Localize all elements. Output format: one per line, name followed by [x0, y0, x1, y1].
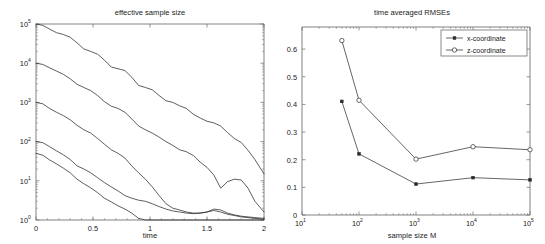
left-curve	[36, 63, 264, 212]
svg-text:10: 10	[20, 177, 28, 186]
right-data-point	[341, 100, 344, 103]
svg-text:4: 4	[28, 57, 31, 63]
svg-text:2: 2	[360, 217, 363, 223]
right-plot-legend: x-coordinatez-coordinate	[441, 30, 527, 56]
svg-text:10: 10	[409, 219, 417, 228]
right-series-line	[342, 41, 530, 160]
right-y-tick-0.6: 0.6	[287, 45, 297, 54]
left-y-tick-labels: 100101102103104105	[20, 18, 31, 225]
svg-text:10: 10	[20, 137, 28, 146]
figure-canvas: effective sample size 100101102103104105…	[0, 0, 545, 244]
svg-text:10: 10	[523, 219, 531, 228]
right-y-tick-0.5: 0.5	[287, 73, 297, 82]
left-curve	[36, 142, 264, 220]
svg-text:10: 10	[20, 20, 28, 29]
left-y-tick-10^5: 105	[20, 18, 31, 29]
right-x-tick-10^3: 103	[409, 217, 420, 228]
right-x-tick-10^5: 105	[523, 217, 534, 228]
left-x-axis-label: time	[143, 231, 157, 240]
svg-text:10: 10	[20, 216, 28, 225]
right-data-point	[472, 176, 475, 179]
left-x-tick-2: 2	[262, 224, 266, 233]
right-data-point	[471, 145, 475, 149]
svg-text:2: 2	[28, 136, 31, 142]
right-data-point	[528, 148, 532, 152]
left-curve	[36, 24, 264, 174]
svg-text:0: 0	[28, 214, 31, 220]
svg-text:10: 10	[20, 98, 28, 107]
right-data-point	[358, 153, 361, 156]
svg-text:10: 10	[295, 219, 303, 228]
left-plot-title: effective sample size	[115, 8, 185, 17]
left-y-tick-10^3: 103	[20, 97, 31, 108]
right-plot-svg: time averaged RMSEs 00.10.20.30.40.50.6 …	[272, 0, 544, 244]
left-y-tick-10^2: 102	[20, 136, 31, 147]
right-data-point	[529, 179, 532, 182]
left-x-tick-0: 0	[34, 224, 38, 233]
legend-label-x-coordinate: x-coordinate	[467, 35, 506, 42]
right-x-tick-10^4: 104	[466, 217, 477, 228]
plot-time-averaged-rmses: time averaged RMSEs 00.10.20.30.40.50.6 …	[272, 0, 544, 244]
svg-text:10: 10	[352, 219, 360, 228]
left-y-tick-10^1: 101	[20, 175, 31, 186]
right-y-tick-labels: 00.10.20.30.40.50.6	[287, 45, 297, 220]
svg-text:5: 5	[28, 18, 31, 24]
right-data-series	[340, 38, 533, 185]
right-data-point	[414, 157, 418, 161]
left-x-tick-1.5: 1.5	[202, 224, 212, 233]
svg-text:10: 10	[466, 219, 474, 228]
left-data-curves	[36, 24, 264, 220]
right-x-tick-10^1: 101	[295, 217, 306, 228]
right-data-point	[340, 38, 344, 42]
svg-text:4: 4	[474, 217, 477, 223]
right-plot-title: time averaged RMSEs	[374, 8, 450, 17]
svg-text:1: 1	[303, 217, 306, 223]
right-y-tick-0.2: 0.2	[287, 156, 297, 165]
svg-text:3: 3	[28, 97, 31, 103]
svg-text:3: 3	[417, 217, 420, 223]
left-y-tick-10^0: 100	[20, 214, 31, 225]
left-y-tick-10^4: 104	[20, 57, 31, 68]
right-data-point	[357, 98, 361, 102]
right-y-tick-0.4: 0.4	[287, 100, 297, 109]
svg-text:1: 1	[28, 175, 31, 181]
left-curve	[36, 102, 264, 218]
right-y-tick-0.1: 0.1	[287, 183, 297, 192]
plot-effective-sample-size: effective sample size 100101102103104105…	[0, 0, 272, 244]
left-plot-svg: effective sample size 100101102103104105…	[0, 0, 272, 244]
right-x-axis-label: sample size M	[388, 231, 437, 240]
svg-text:10: 10	[20, 59, 28, 68]
legend-marker-square	[453, 37, 456, 40]
right-x-tick-10^2: 102	[352, 217, 363, 228]
svg-text:5: 5	[531, 217, 534, 223]
legend-label-z-coordinate: z-coordinate	[467, 47, 506, 54]
right-x-tick-labels: 101102103104105	[295, 217, 534, 228]
legend-marker-circle	[452, 48, 456, 52]
right-y-tick-0.3: 0.3	[287, 128, 297, 137]
left-minor-ticks	[36, 26, 264, 220]
left-x-tick-0.5: 0.5	[88, 224, 98, 233]
left-curve	[36, 153, 264, 220]
left-axis-frame	[36, 24, 264, 220]
right-data-point	[415, 183, 418, 186]
right-series-line	[342, 101, 530, 184]
